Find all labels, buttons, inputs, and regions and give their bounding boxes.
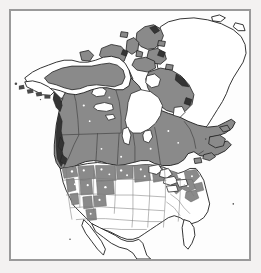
figure-root: .coast { stroke:#1a1a1a; stroke-width:0.… [0,0,261,273]
map-frame: .coast { stroke:#1a1a1a; stroke-width:0.… [9,9,251,261]
map-canvas: .coast { stroke:#1a1a1a; stroke-width:0.… [11,11,249,259]
